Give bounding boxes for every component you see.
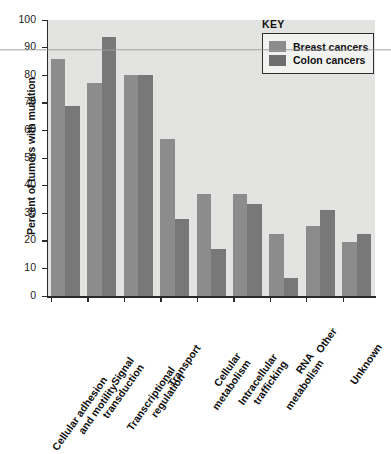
x-axis-tick-mark <box>160 296 161 302</box>
y-axis-tick-mark <box>42 47 48 48</box>
bar-colon <box>138 75 153 296</box>
bar-colon <box>320 210 335 296</box>
bar-colon <box>102 37 117 296</box>
bar-colon <box>357 234 372 296</box>
bar-breast <box>87 83 102 296</box>
x-axis-label: Unknown <box>348 342 385 387</box>
y-axis-tick-label: 100 <box>0 13 36 25</box>
x-axis-tick-mark <box>124 296 125 302</box>
x-axis-tick-mark <box>343 296 344 302</box>
y-axis-tick-label: 80 <box>0 68 36 80</box>
y-axis-tick-label: 40 <box>0 178 36 190</box>
x-axis-tick-mark <box>51 296 52 302</box>
x-axis-label: Other <box>314 326 339 356</box>
legend-swatch <box>269 41 286 52</box>
x-axis-label-line: Unknown <box>348 342 385 387</box>
y-axis-tick-mark <box>42 102 48 103</box>
legend-swatch <box>269 55 286 66</box>
bar-colon <box>247 204 262 296</box>
x-axis-tick-mark <box>87 296 88 302</box>
x-axis-tick-mark <box>306 296 307 302</box>
y-axis-tick-mark <box>42 20 48 21</box>
bar-breast <box>233 194 248 296</box>
legend-item: Breast cancers <box>269 41 367 53</box>
legend-item: Colon cancers <box>269 54 367 66</box>
bar-colon <box>284 278 299 296</box>
bar-breast <box>342 242 357 296</box>
bar-breast <box>160 139 175 296</box>
bar-breast <box>124 75 139 296</box>
legend-label: Breast cancers <box>293 41 368 53</box>
x-axis-tick-mark <box>197 296 198 302</box>
y-axis-tick-mark <box>42 130 48 131</box>
y-axis-tick-label: 30 <box>0 206 36 218</box>
y-axis-tick-label: 0 <box>0 289 36 301</box>
y-axis-tick-label: 20 <box>0 233 36 245</box>
y-axis-tick-mark <box>42 75 48 76</box>
y-axis-tick-mark <box>42 240 48 241</box>
legend: Breast cancersColon cancers <box>262 33 374 74</box>
bar-breast <box>306 226 321 296</box>
bar-breast <box>51 59 66 296</box>
x-axis-tick-mark <box>270 296 271 302</box>
y-axis-tick-label: 90 <box>0 40 36 52</box>
y-axis-tick-label: 50 <box>0 151 36 163</box>
y-axis-tick-mark <box>42 185 48 186</box>
bar-colon <box>211 249 226 296</box>
x-axis-line <box>47 296 376 298</box>
x-axis-label-line: Other <box>314 326 339 356</box>
y-axis-tick-label: 60 <box>0 123 36 135</box>
legend-label: Colon cancers <box>293 54 365 66</box>
y-axis-tick-label: 10 <box>0 261 36 273</box>
y-axis-tick-mark <box>42 158 48 159</box>
bar-breast <box>197 194 212 296</box>
y-axis-tick-mark <box>42 268 48 269</box>
y-axis-tick-mark <box>42 296 48 297</box>
y-axis-tick-mark <box>42 213 48 214</box>
bar-colon <box>65 106 80 296</box>
y-axis-tick-label: 70 <box>0 95 36 107</box>
x-axis-tick-mark <box>233 296 234 302</box>
bar-colon <box>175 219 190 296</box>
bar-breast <box>269 234 284 296</box>
legend-title: KEY <box>262 18 285 30</box>
